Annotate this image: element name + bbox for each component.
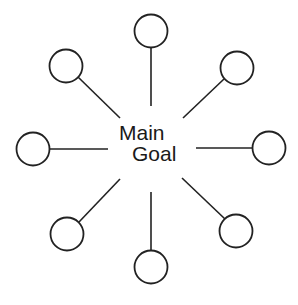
node-top (135, 15, 168, 48)
node-bottom-left (51, 218, 84, 251)
main-goal-line2: Goal (132, 143, 176, 165)
node-top-right (221, 52, 254, 85)
spoke-bottom-right (182, 178, 225, 219)
node-left (17, 133, 50, 166)
spoke-top-right (183, 79, 224, 118)
node-bottom-right (220, 215, 253, 248)
main-goal-line1: Main (119, 122, 165, 144)
spoke-bottom-left (79, 179, 120, 222)
spoke-top-left (78, 77, 120, 118)
node-top-left (50, 50, 83, 83)
node-right (253, 132, 286, 165)
node-bottom (135, 251, 168, 284)
